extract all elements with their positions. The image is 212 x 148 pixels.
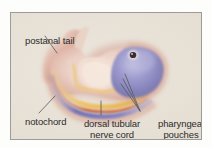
- label-notochord: notochord: [25, 117, 66, 128]
- label-dorsal-tubular-nerve-cord: dorsal tubular nerve cord: [77, 119, 147, 140]
- eye: [128, 50, 139, 60]
- eye-pupil-icon: [130, 52, 137, 58]
- leader-line-notochord: [39, 96, 55, 113]
- label-pharyngeal-pouches: pharyngeal pouches: [148, 119, 202, 140]
- embryo-head: [111, 45, 166, 101]
- figure-root: postanal tail notochord dorsal tubular n…: [0, 0, 212, 148]
- illustration-plate-frame: postanal tail notochord dorsal tubular n…: [10, 12, 202, 140]
- eye-glint-icon: [131, 53, 133, 55]
- label-postanal-tail: postanal tail: [25, 36, 74, 47]
